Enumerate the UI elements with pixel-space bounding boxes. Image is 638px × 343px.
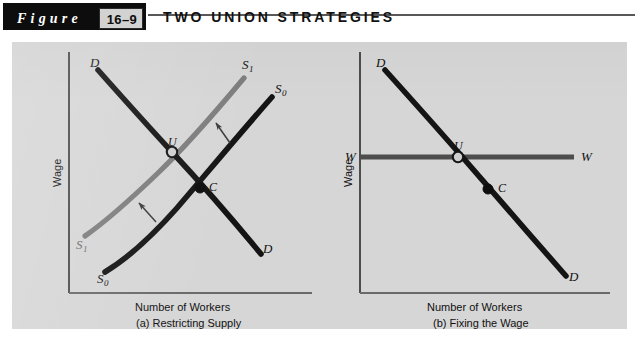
- figure-word-label: Figure: [17, 9, 82, 28]
- figure-number-label: 16–9: [100, 9, 144, 30]
- panel-b-fixed-wage-label-right: W: [581, 150, 592, 163]
- panel-a-point-U-label: U: [168, 136, 177, 148]
- panel-b-demand-label-bottom: D: [569, 270, 578, 283]
- panel-a-supply-restricted-label-bottom: S1: [76, 238, 87, 253]
- figure-badge: Figure 16–9: [3, 3, 146, 30]
- panel-b-y-axis-label: Wage: [342, 159, 355, 187]
- panel-b-point-U-label: U: [454, 140, 463, 152]
- figure-title: TWO UNION STRATEGIES: [163, 8, 395, 27]
- panel-a-point-C-label: C: [209, 181, 217, 193]
- panel-a-supply-original-label-top: S0: [275, 82, 286, 97]
- panel-b-point-C: [483, 184, 493, 194]
- panel-a-supply-original-curve: [105, 97, 272, 272]
- panel-a-shift-arrow-lower: [139, 203, 156, 222]
- panel-b-axes: [360, 52, 610, 293]
- panel-b-point-U: [453, 152, 463, 162]
- panel-a-demand-curve: [98, 70, 261, 254]
- panel-a-demand-label-bottom: D: [263, 242, 272, 255]
- panel-b-demand-curve: [385, 70, 566, 276]
- panel-a-x-axis-label: Number of Workers: [135, 301, 230, 314]
- figure-container: Figure 16–9 TWO UNION STRATEGIES: [0, 0, 638, 343]
- panel-a-point-C: [195, 183, 205, 193]
- panel-a-supply-original-label-bottom: S0: [97, 272, 108, 287]
- panel-a-shift-arrow-upper: [216, 123, 230, 143]
- panel-b-demand-label-top: D: [376, 56, 385, 69]
- panel-b-x-axis-label: Number of Workers: [427, 301, 522, 314]
- chart-panel: D D S0 S0 S1 S1 U C Wage Number of Worke…: [12, 42, 627, 329]
- panel-a-supply-restricted-label-top: S1: [242, 58, 253, 73]
- panel-a-demand-label-top: D: [90, 56, 99, 69]
- panel-a-y-axis-label: Wage: [51, 159, 64, 187]
- figure-number-box: 16–9: [99, 8, 143, 29]
- panel-b-point-C-label: C: [498, 182, 506, 194]
- panel-b-caption: (b) Fixing the Wage: [433, 317, 529, 330]
- panel-a-caption: (a) Restricting Supply: [136, 317, 241, 330]
